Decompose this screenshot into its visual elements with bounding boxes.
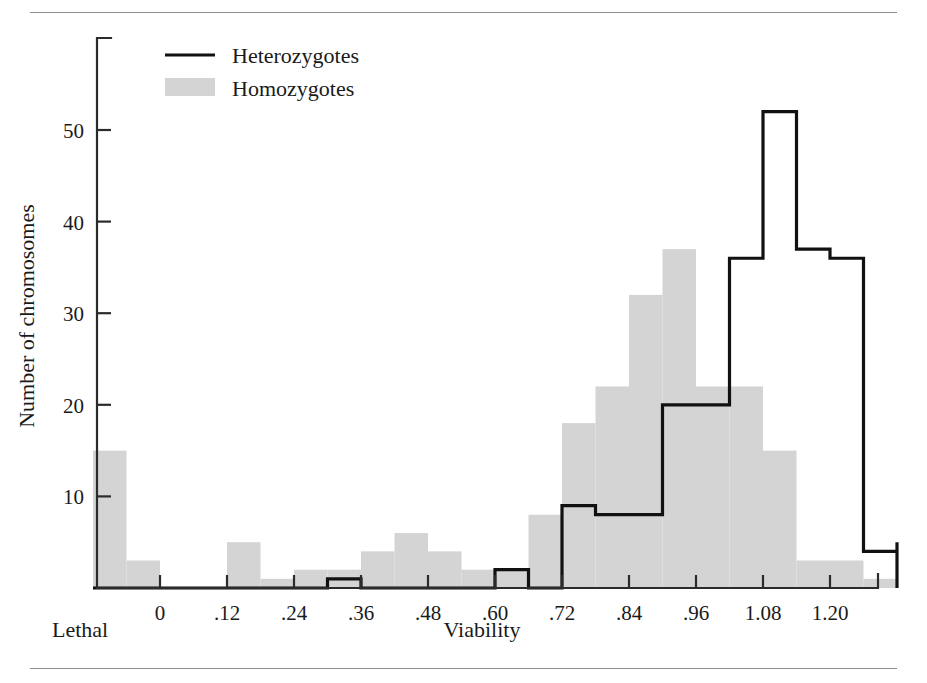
- y-tick-label: 20: [63, 394, 84, 418]
- homozygote-bar: [495, 570, 529, 588]
- y-tick-label: 10: [63, 485, 84, 509]
- homozygote-bar: [428, 551, 462, 588]
- legend: Heterozygotes Homozygotes: [165, 43, 359, 101]
- viability-histogram: 0.12.24.36.48.60.72.84.961.081.20 102030…: [0, 0, 927, 683]
- homozygote-bar: [596, 386, 630, 588]
- homozygotes-bars-layer: [93, 249, 897, 588]
- homozygote-bar: [663, 249, 697, 588]
- homozygote-bar: [395, 533, 429, 588]
- x-tick-label: 1.20: [812, 601, 849, 625]
- x-tick-label: .24: [281, 601, 308, 625]
- legend-swatch-marker: [165, 78, 215, 96]
- x-tick-label: .72: [549, 601, 575, 625]
- homozygote-bar: [730, 386, 764, 588]
- homozygote-bar: [763, 451, 797, 588]
- figure-top-rule: [30, 12, 897, 13]
- homozygote-bar: [529, 515, 563, 588]
- homozygote-bar: [864, 579, 898, 588]
- lethal-label: Lethal: [52, 617, 108, 642]
- x-tick-label: .36: [348, 601, 374, 625]
- y-tick-label: 40: [63, 211, 84, 235]
- x-tick-label: .12: [214, 601, 240, 625]
- homozygote-bar: [696, 386, 730, 588]
- figure-container: 0.12.24.36.48.60.72.84.961.081.20 102030…: [0, 0, 927, 683]
- homozygote-bar: [227, 542, 261, 588]
- homozygote-bar: [361, 551, 395, 588]
- homozygote-bar: [797, 561, 831, 588]
- x-tick-label: 1.08: [745, 601, 782, 625]
- x-tick-label: .48: [415, 601, 441, 625]
- homozygote-bar: [629, 295, 663, 588]
- y-axis-title: Number of chromosomes: [14, 204, 39, 428]
- homozygote-bar: [830, 561, 864, 588]
- y-tick-label: 30: [63, 302, 84, 326]
- homozygote-bar: [462, 570, 496, 588]
- figure-bottom-rule: [30, 668, 897, 669]
- x-tick-label: .96: [683, 601, 709, 625]
- homozygote-bar: [294, 570, 328, 588]
- y-tick-label-layer: 1020304050: [63, 119, 84, 509]
- x-tick-label: 0: [155, 601, 166, 625]
- legend-label-homozygotes: Homozygotes: [232, 76, 354, 101]
- x-tick-label: .84: [616, 601, 643, 625]
- x-axis-title: Viability: [444, 617, 521, 642]
- homozygote-bar: [127, 561, 161, 588]
- legend-label-heterozygotes: Heterozygotes: [232, 43, 359, 68]
- y-tick-label: 50: [63, 119, 84, 143]
